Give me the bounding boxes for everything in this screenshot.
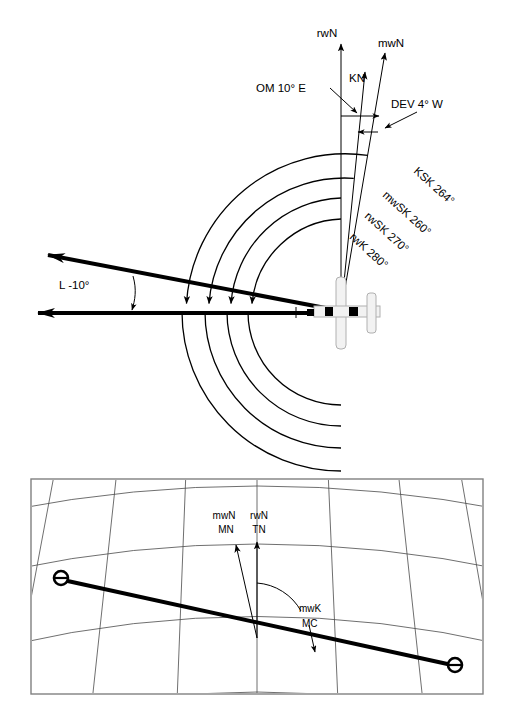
waypoint-start — [54, 571, 68, 585]
meridian-line — [12, 470, 55, 700]
deviation-leader — [385, 112, 417, 128]
aircraft-tailplane — [367, 293, 376, 333]
meridian-line — [177, 470, 186, 702]
true-north-label-chart-line1: rwN — [250, 510, 268, 521]
magnetic-north-label-chart-line1: mwN — [213, 510, 236, 521]
variation-leader — [330, 88, 357, 113]
variation-measure — [330, 88, 379, 116]
magnetic-north-label: mwN — [378, 37, 404, 49]
true-track-arc-lower — [227, 312, 341, 426]
waypoint-end — [448, 658, 462, 672]
aircraft-engine-right — [349, 307, 358, 316]
drift-angle-measure — [132, 276, 135, 310]
variation-callout: OM 10° E — [256, 82, 306, 94]
diagram-canvas: rwN KN mwN OM 10° E DEV 4° W — [0, 0, 515, 723]
angle-relations-panel: rwN KN mwN OM 10° E DEV 4° W — [38, 27, 457, 471]
magnetic-north-line-chart — [236, 545, 257, 638]
compass-north-label: KN — [349, 72, 365, 84]
magnetic-track-arc — [209, 178, 354, 304]
magnetic-course-leader — [309, 625, 315, 652]
deviation-callout: DEV 4° W — [391, 98, 443, 110]
true-north-label: rwN — [317, 27, 337, 39]
aircraft-symbol — [296, 277, 380, 349]
compass-track-arc-lower — [182, 312, 341, 471]
true-track-arc — [231, 198, 341, 304]
magnetic-course-arc — [257, 583, 301, 611]
magnetic-track-arc-lower — [205, 312, 341, 448]
parallel-line — [10, 692, 505, 722]
magnetic-north-label-chart-line2: MN — [218, 524, 234, 535]
meridian-line — [398, 470, 423, 702]
aircraft-engine-left — [325, 307, 333, 316]
meridian-line — [460, 470, 500, 700]
aircraft-nose — [307, 309, 314, 316]
true-heading-arc — [252, 219, 341, 304]
compass-track-arc-label: KSK 264° — [412, 165, 457, 207]
parallel-line — [10, 486, 505, 510]
track-line — [48, 255, 336, 310]
drift-angle-arc — [132, 276, 135, 310]
deviation-measure — [358, 112, 417, 132]
meridian-line — [328, 470, 338, 702]
magnetic-course-callout-line2: MC — [302, 618, 318, 629]
chart-projection-panel: mwN MN rwN TN mwK MC — [10, 470, 505, 722]
magnetic-course-callout-line1: mwK — [299, 603, 322, 614]
true-heading-arc-lower — [248, 312, 341, 405]
true-north-label-chart-line2: TN — [252, 524, 265, 535]
drift-angle-callout: L -10° — [59, 279, 89, 291]
navigation-diagram: rwN KN mwN OM 10° E DEV 4° W — [0, 0, 515, 723]
chart-north-arrows — [236, 542, 257, 638]
